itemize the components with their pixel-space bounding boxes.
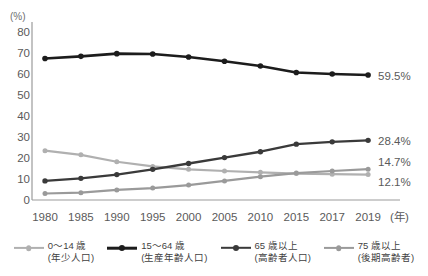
data-point <box>258 174 263 179</box>
data-point <box>186 167 191 172</box>
data-point <box>366 172 371 177</box>
legend-marker-icon <box>221 242 251 254</box>
data-point <box>222 58 228 64</box>
data-point <box>150 167 155 172</box>
population-ratio-line-chart: (%) 01020304050607080 198019851990199520… <box>0 0 428 276</box>
legend-label-secondary: (年少人口) <box>48 252 94 264</box>
series-line <box>45 54 368 75</box>
data-point <box>78 54 84 60</box>
data-point <box>43 148 48 153</box>
data-point <box>294 70 300 76</box>
data-point <box>186 183 191 188</box>
legend-marker-icon <box>107 242 137 254</box>
y-tick-label: 80 <box>0 27 30 37</box>
data-point <box>78 152 83 157</box>
legend-label-secondary: (後期高齢者) <box>358 252 414 264</box>
data-point <box>114 187 119 192</box>
data-point <box>42 56 48 62</box>
y-tick-label: 30 <box>0 132 30 142</box>
data-point <box>114 172 119 177</box>
data-point <box>150 51 156 57</box>
chart-legend: 0〜14 歳(年少人口)15〜64 歳(生産年齢人口)65 歳以上(高齢者人口)… <box>0 240 428 276</box>
legend-dot <box>119 245 125 251</box>
legend-item-0[interactable]: 0〜14 歳(年少人口) <box>14 240 94 263</box>
y-tick-label: 40 <box>0 111 30 121</box>
data-point <box>114 159 119 164</box>
end-label-1: 59.5% <box>378 70 411 82</box>
legend-dot <box>336 245 342 251</box>
legend-label-secondary: (生産年齢人口) <box>141 252 207 264</box>
y-tick-label: 0 <box>0 195 30 205</box>
data-point <box>150 186 155 191</box>
data-point <box>329 71 335 77</box>
data-point <box>43 191 48 196</box>
data-point <box>222 178 227 183</box>
data-point <box>365 138 370 143</box>
y-tick-label: 20 <box>0 153 30 163</box>
data-point <box>78 190 83 195</box>
data-point <box>222 155 227 160</box>
data-point <box>42 178 47 183</box>
legend-label: 15〜64 歳(生産年齢人口) <box>141 240 207 263</box>
data-point <box>222 169 227 174</box>
data-point <box>258 149 263 154</box>
legend-label: 65 歳以上(高齢者人口) <box>255 240 311 263</box>
legend-item-3[interactable]: 75 歳以上(後期高齢者) <box>324 240 414 263</box>
data-point <box>330 139 335 144</box>
legend-label: 75 歳以上(後期高齢者) <box>358 240 414 263</box>
data-point <box>114 51 120 57</box>
legend-marker-icon <box>324 242 354 254</box>
data-point <box>330 169 335 174</box>
legend-item-1[interactable]: 15〜64 歳(生産年齢人口) <box>107 240 207 263</box>
y-tick-label: 60 <box>0 69 30 79</box>
data-point <box>258 170 263 175</box>
legend-label-primary: 75 歳以上 <box>358 240 401 251</box>
y-tick-label: 70 <box>0 48 30 58</box>
x-tick-label: 2019 <box>346 211 390 223</box>
data-point <box>294 171 299 176</box>
legend-marker-icon <box>14 242 44 254</box>
legend-label-primary: 0〜14 歳 <box>48 240 87 251</box>
legend-dot <box>26 245 32 251</box>
y-tick-label: 50 <box>0 90 30 100</box>
data-point <box>258 63 264 69</box>
legend-label-primary: 65 歳以上 <box>255 240 298 251</box>
legend-item-2[interactable]: 65 歳以上(高齢者人口) <box>221 240 311 263</box>
data-point <box>186 161 191 166</box>
data-point <box>365 72 371 78</box>
series-1 <box>42 51 371 78</box>
data-point <box>186 54 192 60</box>
legend-label-secondary: (高齢者人口) <box>255 252 311 264</box>
end-label-3: 14.7% <box>378 156 411 168</box>
legend-label: 0〜14 歳(年少人口) <box>48 240 94 263</box>
y-tick-label: 10 <box>0 174 30 184</box>
x-axis-unit-label: (年) <box>390 211 409 223</box>
series-2 <box>42 138 371 184</box>
data-point <box>366 167 371 172</box>
legend-label-primary: 15〜64 歳 <box>141 240 185 251</box>
data-point <box>78 176 83 181</box>
series-line <box>45 169 368 193</box>
end-label-2: 28.4% <box>378 135 411 147</box>
end-label-0: 12.1% <box>378 176 411 188</box>
data-point <box>294 141 299 146</box>
legend-dot <box>233 245 239 251</box>
plot-area <box>0 0 428 276</box>
